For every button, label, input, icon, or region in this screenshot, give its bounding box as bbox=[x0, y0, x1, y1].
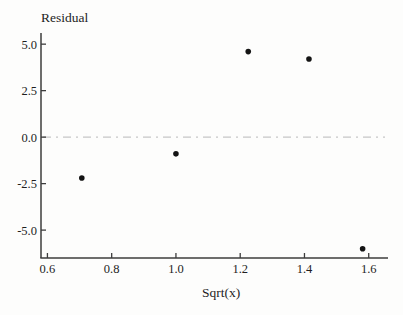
plot-canvas: 5.02.50.0-2.5-5.00.60.81.01.21.41.6 bbox=[0, 0, 403, 315]
x-tick-label: 1.0 bbox=[168, 262, 184, 276]
x-tick-label: 1.2 bbox=[232, 262, 248, 276]
data-point bbox=[360, 246, 366, 252]
data-point bbox=[173, 151, 179, 157]
x-axis-title: Sqrt(x) bbox=[202, 285, 240, 301]
y-tick-label: 5.0 bbox=[21, 38, 37, 52]
x-tick-label: 1.4 bbox=[297, 262, 313, 276]
data-point bbox=[79, 175, 85, 181]
x-tick-label: 0.8 bbox=[104, 262, 120, 276]
x-tick-label: 0.6 bbox=[40, 262, 56, 276]
x-tick-label: 1.6 bbox=[361, 262, 377, 276]
data-point bbox=[306, 56, 312, 62]
y-tick-label: 0.0 bbox=[21, 131, 37, 145]
residual-scatter-chart: Residual 5.02.50.0-2.5-5.00.60.81.01.21.… bbox=[0, 0, 403, 315]
y-tick-label: 2.5 bbox=[21, 84, 37, 98]
y-tick-label: -5.0 bbox=[17, 224, 37, 238]
data-point bbox=[245, 49, 251, 55]
y-tick-label: -2.5 bbox=[17, 177, 37, 191]
